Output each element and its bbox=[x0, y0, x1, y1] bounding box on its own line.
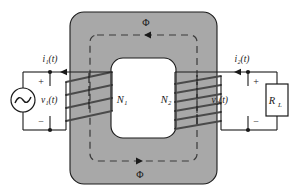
primary-node-bottom bbox=[48, 128, 52, 132]
flux-label-bottom: Φ bbox=[136, 169, 143, 180]
primary-current-arrow bbox=[60, 69, 67, 75]
primary-minus-sign: − bbox=[38, 116, 44, 127]
secondary-plus-sign: + bbox=[253, 76, 259, 87]
primary-turns-label: N₁ bbox=[116, 94, 128, 105]
secondary-current-label: i₂(t) bbox=[235, 54, 250, 65]
primary-node-top bbox=[48, 70, 52, 74]
load-resistor-subscript: L bbox=[277, 101, 282, 109]
flux-label-top: Φ bbox=[142, 17, 149, 28]
primary-plus-sign: + bbox=[38, 76, 44, 87]
secondary-node-top bbox=[246, 70, 250, 74]
secondary-node-bottom bbox=[246, 128, 250, 132]
ac-voltage-source bbox=[11, 88, 35, 112]
secondary-current-arrow bbox=[234, 69, 241, 75]
secondary-turns-label: N₂ bbox=[160, 94, 172, 105]
primary-voltage-label: v₁(t) bbox=[41, 95, 58, 106]
secondary-voltage-label: v₂(t) bbox=[212, 95, 229, 106]
secondary-minus-sign: − bbox=[253, 116, 259, 127]
load-resistor-label: R bbox=[268, 95, 276, 106]
primary-current-label: i₁(t) bbox=[43, 54, 58, 65]
load-resistor: R L bbox=[266, 84, 288, 116]
transformer-diagram: Φ Φ bbox=[0, 0, 300, 196]
transformer-figure: Φ Φ bbox=[0, 0, 300, 196]
